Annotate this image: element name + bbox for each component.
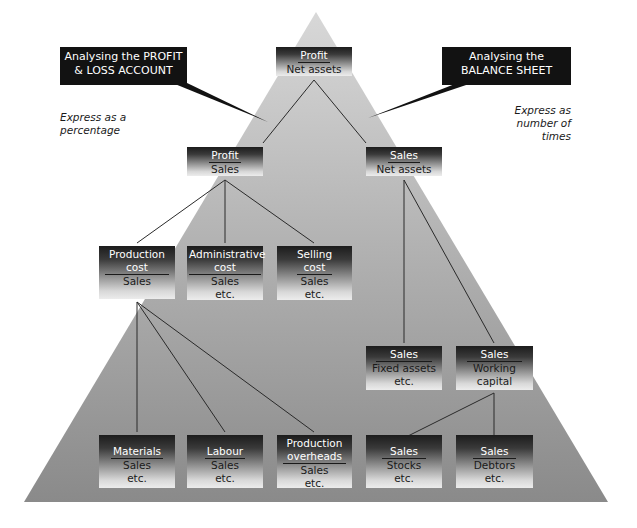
left-callout-pointer <box>170 82 268 122</box>
denominator: Net assets <box>276 63 352 76</box>
denominator: Sales <box>277 464 352 477</box>
note-line: number of <box>500 117 571 130</box>
etc-label: etc. <box>366 375 442 388</box>
callout-profit-loss-account: Analysing the PROFIT & LOSS ACCOUNT <box>60 47 187 85</box>
node-profit-sales: Profit Sales <box>187 147 263 176</box>
callout-line: Analysing the <box>442 50 571 64</box>
callout-line: Analysing the PROFIT <box>60 50 187 64</box>
denominator: Debtors <box>456 459 533 472</box>
denominator: Sales <box>187 163 263 176</box>
numerator: Profit <box>298 49 329 63</box>
right-callout-pointer <box>368 82 475 118</box>
etc-label: etc. <box>456 472 533 485</box>
numerator-line: overheads <box>283 450 346 464</box>
callout-line: BALANCE SHEET <box>442 64 571 78</box>
numerator: Sales <box>467 348 523 362</box>
numerator: Sales <box>473 445 517 459</box>
numerator-line: Administrative <box>187 248 263 261</box>
node-sales-stocks: Sales Stocks etc. <box>366 435 442 488</box>
numerator-line: Production <box>283 437 346 450</box>
node-production-overheads: Production overheads Sales etc. <box>277 435 352 488</box>
denominator: Sales <box>277 275 352 288</box>
numerator: Sales <box>376 348 432 362</box>
numerator: Profit <box>209 149 240 163</box>
note-line: Express as a <box>60 111 126 124</box>
numerator-line: Production <box>105 248 169 261</box>
numerator: Sales <box>388 149 420 163</box>
node-sales-working-capital: Sales Working capital <box>456 346 533 390</box>
numerator: Sales <box>382 445 426 459</box>
etc-label: etc. <box>277 288 352 301</box>
denominator: Stocks <box>366 459 442 472</box>
denominator-line: Working <box>456 362 533 375</box>
note-line: Express as <box>500 104 571 117</box>
numerator-line: Selling <box>283 248 346 261</box>
denominator: Sales <box>187 459 263 472</box>
note-line: times <box>500 130 571 143</box>
ratio-pyramid-diagram: Analysing the PROFIT & LOSS ACCOUNT Anal… <box>0 0 637 528</box>
numerator: Labour <box>205 445 245 459</box>
denominator-line: capital <box>456 375 533 388</box>
callout-balance-sheet: Analysing the BALANCE SHEET <box>442 47 571 85</box>
etc-label: etc. <box>99 472 175 485</box>
note-express-as-percentage: Express as a percentage <box>60 111 126 137</box>
node-administrative-cost: Administrative cost Sales etc. <box>187 246 263 300</box>
etc-label: etc. <box>187 288 263 301</box>
node-sales-net-assets: Sales Net assets <box>366 147 442 176</box>
note-express-as-times: Express as number of times <box>500 104 571 143</box>
node-profit-net-assets: Profit Net assets <box>276 47 352 76</box>
node-selling-cost: Selling cost Sales etc. <box>277 246 352 300</box>
denominator: Sales <box>99 459 175 472</box>
note-line: percentage <box>60 124 126 137</box>
denominator: Fixed assets <box>366 362 442 375</box>
node-sales-debtors: Sales Debtors etc. <box>456 435 533 488</box>
etc-label: etc. <box>277 477 352 490</box>
node-sales-fixed-assets: Sales Fixed assets etc. <box>366 346 442 390</box>
numerator-line: cost <box>105 261 169 275</box>
etc-label: etc. <box>187 472 263 485</box>
denominator: Net assets <box>366 163 442 176</box>
denominator: Sales <box>187 275 263 288</box>
callout-line: & LOSS ACCOUNT <box>60 64 187 78</box>
node-labour: Labour Sales etc. <box>187 435 263 488</box>
denominator: Sales <box>99 275 175 288</box>
node-production-cost: Production cost Sales <box>99 246 175 299</box>
numerator: Materials <box>111 445 163 459</box>
numerator-line: cost <box>297 261 332 275</box>
numerator-line: cost <box>189 261 261 275</box>
etc-label: etc. <box>366 472 442 485</box>
node-materials: Materials Sales etc. <box>99 435 175 488</box>
